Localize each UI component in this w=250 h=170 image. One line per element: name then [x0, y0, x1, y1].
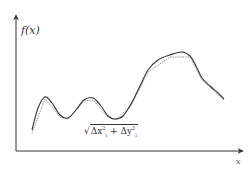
delta-x: Δx: [91, 126, 103, 136]
delta-x-exponent: 2: [102, 125, 105, 131]
plus-sign: +: [107, 126, 120, 136]
radicand: Δx2i + Δy2i: [90, 124, 138, 138]
delta-y-index: i: [135, 132, 137, 138]
function-curve: [32, 52, 224, 130]
x-axis-label: x: [236, 157, 241, 166]
polygonal-approximation: [32, 57, 224, 133]
delta-y-exponent: 2: [132, 125, 135, 131]
y-axis-label: f(x): [21, 24, 40, 37]
segment-length-formula: √Δx2i + Δy2i: [84, 124, 138, 138]
delta-y: Δy: [120, 126, 132, 136]
